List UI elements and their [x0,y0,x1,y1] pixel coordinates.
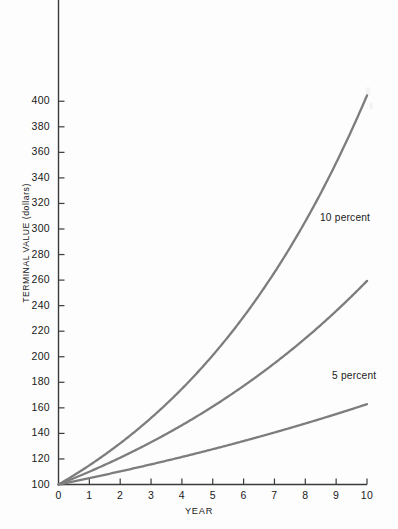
x-axis-title: YEAR [0,506,398,516]
chart-figure: 1001201401601802002202402602803003203403… [0,0,398,529]
y-axis-tick-label: 400 [8,94,50,106]
y-axis-tick-label: 140 [8,426,50,438]
y-axis-tick-label: 100 [8,478,50,490]
x-axis-tick-label: 8 [295,489,315,501]
y-axis-tick-label: 200 [8,350,50,362]
y-axis-title: TERMINAL VALUE (dollars) [21,173,31,313]
y-axis-tick-label: 160 [8,401,50,413]
x-axis-tick-label: 6 [234,489,254,501]
chart-axes [59,0,368,485]
x-axis-tick-label: 10 [357,489,377,501]
x-axis-tick-label: 9 [326,489,346,501]
chart-series-lines [59,95,368,484]
x-axis-tick-label: 0 [49,489,69,501]
x-axis-tick-label: 4 [172,489,192,501]
scan-artifact-speck [361,84,377,118]
chart-plot-area [0,0,398,529]
series-line-15-percent [59,95,368,484]
y-axis-tick-label: 360 [8,145,50,157]
y-axis-tick-label: 120 [8,452,50,464]
series-annotation-10-percent: 10 percent [320,212,370,223]
x-axis-tick-label: 2 [110,489,130,501]
series-line-5-percent [59,404,368,484]
x-axis-tick-label: 3 [141,489,161,501]
x-axis-tick-marks [89,479,367,485]
x-axis-tick-label: 1 [79,489,99,501]
y-axis-tick-label: 380 [8,120,50,132]
x-axis-tick-label: 5 [203,489,223,501]
series-annotation-5-percent: 5 percent [332,370,376,381]
x-axis-tick-label: 7 [264,489,284,501]
y-axis-tick-marks [59,101,65,484]
y-axis-tick-label: 220 [8,324,50,336]
y-axis-tick-label: 180 [8,375,50,387]
